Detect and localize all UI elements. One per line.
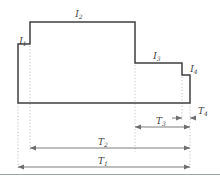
interval-label-i2: I2: [74, 9, 83, 20]
dimension-label-t1: T1: [98, 156, 108, 167]
interval-labels: I1 I2 I3 I4: [18, 9, 198, 75]
figure-container: I1 I2 I3 I4 T4 T3 T2 T1: [0, 0, 220, 180]
step-profile-outline: [18, 22, 190, 103]
interval-label-i4: I4: [189, 64, 198, 75]
interval-label-i3: I3: [152, 51, 161, 62]
extension-lines: [18, 46, 190, 170]
dimension-labels: T4 T3 T2 T1: [98, 106, 208, 167]
interval-label-i1: I1: [18, 36, 26, 47]
step-profile-diagram: I1 I2 I3 I4 T4 T3 T2 T1: [0, 0, 220, 180]
dimension-label-t4: T4: [198, 106, 208, 117]
dimension-label-t2: T2: [98, 137, 108, 148]
dimension-label-t3: T3: [156, 116, 166, 127]
